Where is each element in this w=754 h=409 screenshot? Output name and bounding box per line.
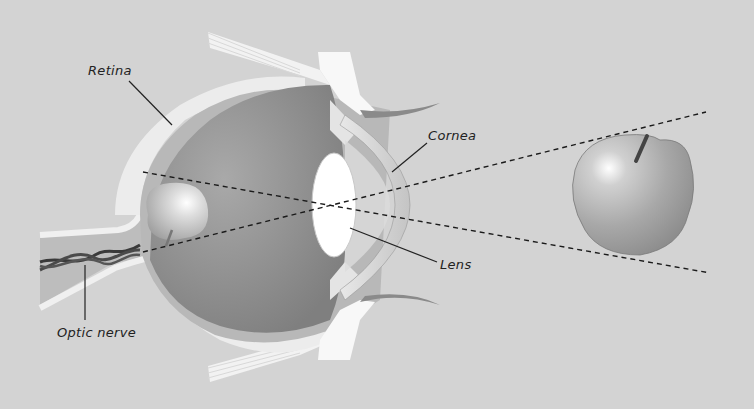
label-lens: Lens xyxy=(440,257,471,272)
label-cornea: Cornea xyxy=(428,128,476,143)
label-retina: Retina xyxy=(88,63,132,78)
eye-diagram xyxy=(0,0,754,409)
lens xyxy=(312,153,356,257)
label-optic-nerve: Optic nerve xyxy=(57,325,136,340)
apple-object xyxy=(573,135,694,255)
optic-nerve xyxy=(40,215,148,308)
